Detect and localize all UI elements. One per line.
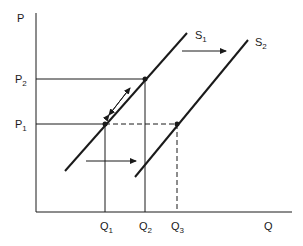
supply-curve-s2 (135, 40, 248, 177)
point-q3-p1 (175, 122, 180, 127)
price-label-p1: P1 (15, 118, 27, 133)
diagram-canvas: P Q P2 P1 Q1 Q2 Q3 S1 S2 (0, 0, 303, 246)
quantity-label-q3: Q3 (171, 220, 185, 235)
supply-curve-s1 (65, 33, 187, 171)
x-axis-label: Q (264, 220, 273, 232)
quantity-label-q2: Q2 (139, 220, 153, 235)
curve-label-s2: S2 (255, 36, 267, 51)
quantity-label-q1: Q1 (100, 220, 114, 235)
curve-label-s1: S1 (195, 29, 207, 44)
point-q1-p1 (103, 122, 108, 127)
price-label-p2: P2 (15, 73, 27, 88)
supply-shift-diagram: P Q P2 P1 Q1 Q2 Q3 S1 S2 (0, 0, 303, 246)
point-q2-p2 (143, 77, 148, 82)
y-axis-label: P (17, 12, 24, 24)
